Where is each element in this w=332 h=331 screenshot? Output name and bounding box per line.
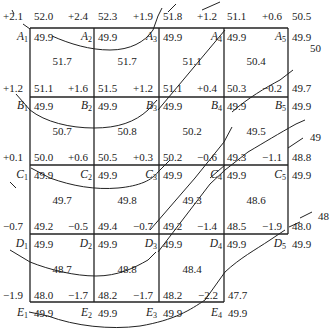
cut-A1: +2.1 [3, 10, 23, 22]
existing-E4: 49.9 [228, 307, 247, 319]
existing-C1: 49.9 [34, 169, 53, 181]
existing-B5: 49.9 [292, 100, 311, 112]
label-A5: A5 [275, 30, 286, 46]
existing-B3: 49.9 [163, 100, 182, 112]
label-B2: B2 [81, 99, 92, 115]
design-C5: 48.8 [292, 151, 311, 163]
label-E4: E4 [211, 306, 222, 322]
cut-A3: +1.9 [133, 10, 153, 22]
label-B3: B3 [146, 99, 157, 115]
existing-A1: 49.9 [34, 31, 53, 43]
label-B4: B4 [211, 99, 222, 115]
cell-avg: 51.7 [117, 55, 136, 67]
label-C2: C2 [80, 168, 92, 184]
design-D1: 49.2 [34, 220, 53, 232]
design-D2: 49.4 [98, 220, 117, 232]
cell-avg: 50.4 [246, 55, 265, 67]
design-A3: 51.8 [163, 10, 182, 22]
design-A4: 51.1 [227, 10, 246, 22]
contour-label-49: 49 [310, 131, 321, 143]
design-C1: 50.0 [34, 151, 53, 163]
design-E1: 48.0 [34, 289, 53, 301]
design-E2: 48.2 [98, 289, 117, 301]
existing-B1: 49.9 [34, 100, 53, 112]
cell-avg: 50.7 [52, 125, 71, 137]
cell-avg: 48.6 [246, 194, 265, 206]
existing-A3: 49.9 [163, 31, 182, 43]
cut-D2: −0.5 [68, 220, 88, 232]
grid-diagram: +2.1 52.0 +2.4 52.3 +1.9 51.8 +1.2 51.1 … [0, 0, 332, 331]
label-B1: B1 [17, 99, 28, 115]
cell-avg: 50.8 [117, 125, 136, 137]
existing-C3: 49.9 [163, 169, 182, 181]
label-B5: B5 [275, 99, 286, 115]
label-D3: D3 [145, 237, 157, 253]
label-C4: C4 [210, 168, 222, 184]
design-A2: 52.3 [98, 10, 117, 22]
label-A2: A2 [81, 30, 92, 46]
design-B1: 51.1 [34, 82, 53, 94]
cut-C4: −0.6 [197, 151, 217, 163]
cut-E2: −1.7 [68, 289, 88, 301]
existing-E2: 49.9 [98, 307, 117, 319]
cell-avg: 48.7 [52, 263, 71, 275]
label-E2: E2 [81, 306, 92, 322]
existing-D1: 49.9 [34, 238, 53, 250]
label-E3: E3 [146, 306, 157, 322]
design-E4: 47.7 [228, 289, 247, 301]
existing-B4: 49.9 [227, 100, 246, 112]
cut-C3: +0.3 [133, 151, 153, 163]
design-C4: 49.3 [227, 151, 246, 163]
cut-E4: −2.2 [198, 289, 218, 301]
existing-C4: 49.9 [227, 169, 246, 181]
design-B2: 51.5 [98, 82, 117, 94]
cut-D4: −1.4 [197, 220, 217, 232]
label-D2: D2 [80, 237, 92, 253]
label-E1: E1 [17, 306, 28, 322]
design-C3: 50.2 [163, 151, 182, 163]
cut-E1: −1.9 [3, 289, 23, 301]
cut-B3: +1.2 [133, 82, 153, 94]
cell-avg: 48.8 [117, 263, 136, 275]
grid-lines [0, 0, 332, 331]
cell-avg: 49.5 [246, 125, 265, 137]
design-B4: 50.3 [227, 82, 246, 94]
design-E3: 48.2 [163, 289, 182, 301]
design-D5: 48.0 [292, 220, 311, 232]
cut-C1: +0.1 [3, 151, 23, 163]
label-D5: D5 [274, 237, 286, 253]
cut-B2: +1.6 [68, 82, 88, 94]
cut-A5: +0.6 [262, 10, 282, 22]
cut-A4: +1.2 [197, 10, 217, 22]
existing-D4: 49.9 [227, 238, 246, 250]
cut-B5: −0.2 [262, 82, 282, 94]
cell-avg: 51.1 [182, 55, 201, 67]
label-C3: C3 [145, 168, 157, 184]
label-A4: A4 [211, 30, 222, 46]
cell-avg: 51.7 [52, 55, 71, 67]
cut-B4: +0.4 [197, 82, 217, 94]
contour-label-50: 50 [310, 42, 321, 54]
design-C2: 50.5 [98, 151, 117, 163]
cell-avg: 50.2 [182, 125, 201, 137]
existing-A5: 49.9 [292, 31, 311, 43]
design-D4: 48.5 [227, 220, 246, 232]
label-C5: C5 [274, 168, 286, 184]
cut-C5: −1.1 [262, 151, 282, 163]
design-A1: 52.0 [34, 10, 53, 22]
design-B3: 51.1 [163, 82, 182, 94]
label-A1: A1 [17, 30, 28, 46]
existing-E3: 49.9 [163, 307, 182, 319]
cell-avg: 49.8 [117, 194, 136, 206]
cut-D1: −0.7 [3, 220, 23, 232]
existing-D5: 49.9 [292, 238, 311, 250]
cut-C2: +0.6 [68, 151, 88, 163]
cell-avg: 48.4 [182, 263, 201, 275]
label-D4: D4 [210, 237, 222, 253]
cell-avg: 49.7 [52, 194, 71, 206]
label-A3: A3 [146, 30, 157, 46]
cell-avg: 49.3 [182, 194, 201, 206]
design-B5: 49.7 [292, 82, 311, 94]
existing-A4: 49.9 [227, 31, 246, 43]
existing-C2: 49.9 [98, 169, 117, 181]
